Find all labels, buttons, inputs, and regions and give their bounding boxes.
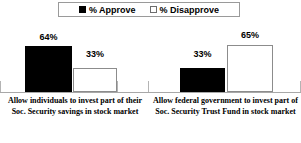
bar-g0-approve (25, 46, 72, 92)
filled-square-icon (79, 6, 86, 13)
bar-value-g1-approve: 33% (180, 49, 225, 60)
bar-value-g0-approve: 64% (25, 32, 72, 43)
legend-entry-approve: % Approve (79, 5, 136, 15)
bar-value-g0-disapprove: 33% (73, 49, 117, 60)
legend-entry-disapprove: % Disapprove (150, 5, 220, 15)
bar-g1-approve (180, 68, 225, 92)
category-axis-labels: Allow individuals to invest part of thei… (0, 96, 301, 143)
hollow-square-icon (150, 6, 157, 13)
bar-g1-disapprove (227, 45, 273, 92)
category-label-1: Allow federal government to invest part … (152, 96, 299, 117)
bar-g0-disapprove (73, 68, 117, 92)
legend-label-approve: % Approve (89, 5, 136, 15)
plot-area: 64% 33% 33% 65% (0, 20, 301, 93)
category-label-0: Allow individuals to invest part of thei… (2, 96, 148, 117)
legend-label-disapprove: % Disapprove (160, 5, 220, 15)
chart-legend: % Approve % Disapprove (58, 2, 240, 17)
bar-value-g1-disapprove: 65% (227, 30, 273, 41)
bar-chart: % Approve % Disapprove 64% 33% 33% 65% A… (0, 0, 301, 143)
x-axis-line (0, 92, 301, 93)
